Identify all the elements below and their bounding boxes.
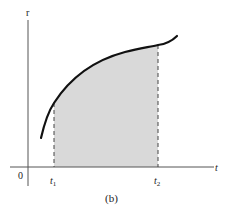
y-axis-label: r	[26, 7, 30, 18]
shaded-area	[54, 45, 158, 167]
area-under-curve-diagram: r t 0 t1 t2 (b)	[0, 0, 227, 218]
origin-label: 0	[18, 170, 23, 181]
t2-label: t2	[154, 175, 161, 188]
t1-label: t1	[50, 175, 57, 188]
t2-label-sub: 2	[157, 180, 161, 188]
figure-caption: (b)	[105, 192, 118, 205]
x-axis-label: t	[215, 162, 218, 173]
t1-label-sub: 1	[53, 180, 57, 188]
